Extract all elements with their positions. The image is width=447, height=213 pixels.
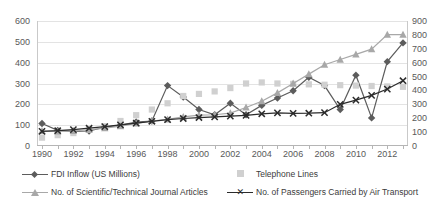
left-axis-tick: 600 bbox=[0, 17, 30, 26]
data-point-marker bbox=[180, 93, 186, 99]
series-triangle bbox=[38, 31, 406, 135]
data-point-marker bbox=[274, 89, 281, 96]
series-plot bbox=[37, 21, 408, 146]
x-axis-tickmark bbox=[120, 146, 121, 149]
data-point-marker bbox=[306, 81, 312, 87]
x-axis-tickmark bbox=[152, 146, 153, 149]
x-axis-tickmark bbox=[89, 146, 90, 149]
data-point-marker bbox=[227, 85, 233, 91]
legend-item[interactable]: Telephone Lines bbox=[227, 167, 318, 181]
x-axis-tickmark bbox=[277, 146, 278, 149]
legend-symbol bbox=[31, 170, 38, 177]
legend-symbol bbox=[237, 170, 244, 177]
legend-symbol: ✕ bbox=[237, 189, 244, 196]
data-point-marker bbox=[368, 114, 375, 121]
legend-label: No. of Passengers Carried by Air Transpo… bbox=[256, 187, 418, 197]
right-axis-tick: 100 bbox=[412, 128, 444, 137]
right-axis-tick: 300 bbox=[412, 100, 444, 109]
data-point-marker bbox=[352, 71, 359, 78]
left-axis-tick: 100 bbox=[0, 121, 30, 130]
legend-label: Telephone Lines bbox=[256, 169, 318, 179]
right-axis-tick: 200 bbox=[412, 114, 444, 123]
data-point-marker bbox=[321, 82, 327, 88]
left-axis-tick: 200 bbox=[0, 100, 30, 109]
right-axis-tick: 400 bbox=[412, 86, 444, 95]
plot-area bbox=[37, 21, 408, 146]
legend-label: No. of Scientific/Technical Journal Arti… bbox=[51, 187, 208, 197]
data-point-marker bbox=[400, 84, 406, 90]
data-point-marker bbox=[149, 106, 155, 112]
right-axis-tick: 600 bbox=[412, 59, 444, 68]
data-point-marker bbox=[258, 97, 265, 104]
legend-symbol bbox=[31, 189, 39, 196]
data-point-marker bbox=[400, 78, 406, 84]
legend-marker-icon bbox=[227, 168, 253, 180]
data-point-marker bbox=[39, 135, 45, 141]
chart-legend: FDI Inflow (US Millions)Telephone LinesN… bbox=[22, 167, 442, 209]
legend-marker-icon bbox=[22, 186, 48, 198]
legend-label: FDI Inflow (US Millions) bbox=[51, 169, 140, 179]
series-diamond bbox=[38, 39, 406, 135]
x-axis-tickmark bbox=[246, 146, 247, 149]
left-axis-tick: 300 bbox=[0, 80, 30, 89]
data-point-marker bbox=[305, 70, 312, 77]
series-line bbox=[42, 81, 403, 132]
data-point-marker bbox=[243, 80, 249, 86]
left-axis-tick: 400 bbox=[0, 59, 30, 68]
chart-container: 0100200300400500600 01002003004005006007… bbox=[0, 0, 447, 213]
x-axis-tickmark bbox=[403, 146, 404, 149]
right-axis-tick: 500 bbox=[412, 73, 444, 82]
data-point-marker bbox=[274, 80, 280, 86]
right-axis-tick: 0 bbox=[412, 142, 444, 151]
data-point-marker bbox=[38, 120, 45, 127]
x-axis-tick: 2012 bbox=[367, 150, 407, 159]
legend-item[interactable]: FDI Inflow (US Millions) bbox=[22, 167, 140, 181]
x-axis-tickmark bbox=[309, 146, 310, 149]
legend-marker-icon: ✕ bbox=[227, 186, 253, 198]
legend-marker-icon bbox=[22, 168, 48, 180]
data-point-marker bbox=[259, 79, 265, 85]
series-square bbox=[39, 79, 406, 140]
data-point-marker bbox=[133, 112, 139, 118]
x-axis-tickmark bbox=[340, 146, 341, 149]
data-point-marker bbox=[196, 91, 202, 97]
left-axis-tick: 500 bbox=[0, 38, 30, 47]
right-axis-tick: 800 bbox=[412, 31, 444, 40]
x-axis-tickmark bbox=[58, 146, 59, 149]
data-point-marker bbox=[337, 82, 343, 88]
right-axis-tick: 900 bbox=[412, 17, 444, 26]
legend-item[interactable]: ✕No. of Passengers Carried by Air Transp… bbox=[227, 185, 418, 199]
x-axis-tickmark bbox=[183, 146, 184, 149]
data-point-marker bbox=[212, 88, 218, 94]
data-point-marker bbox=[353, 82, 359, 88]
data-point-marker bbox=[369, 92, 375, 98]
data-point-marker bbox=[369, 83, 375, 89]
data-point-marker bbox=[164, 100, 170, 106]
x-axis-tickmark bbox=[372, 146, 373, 149]
x-axis-tickmark bbox=[215, 146, 216, 149]
legend-item[interactable]: No. of Scientific/Technical Journal Arti… bbox=[22, 185, 208, 199]
right-axis-tick: 700 bbox=[412, 45, 444, 54]
